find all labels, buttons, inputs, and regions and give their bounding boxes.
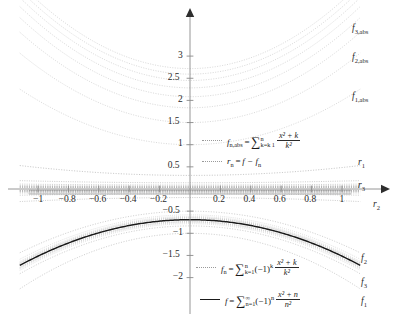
y-tick-label: −1.5 [163,250,180,260]
curve-label-r1: r1 [358,158,365,169]
legend-entry-f-limit: f = ∑∞n=1(−1)nx² + nn² [200,290,300,310]
legend-line-sample [202,140,222,142]
x-tick-label: −1 [33,195,43,205]
x-axis-arrow [381,185,390,193]
y-tick-label: 2.5 [168,73,180,83]
legend-entry-r-n: rn = f − fn [202,156,261,168]
curve-label-r3: r3 [358,181,365,192]
x-tick-label: 0.4 [243,195,255,205]
x-tick-label: 1 [340,195,345,205]
y-tick-label: −1 [173,228,183,238]
x-tick-label: 0.8 [304,195,316,205]
curve-label-f1abs: f1,abs [352,92,368,103]
x-tick-label: −0.2 [150,195,167,205]
y-tick-label: 3 [178,51,183,61]
legend-formula: rn = f − fn [227,156,261,168]
curve-label-f3abs: f3,abs [352,24,368,35]
legend-formula: f = ∑∞n=1(−1)nx² + nn² [225,290,300,310]
x-tick-label: 0.6 [274,195,286,205]
curve-label-f3: f3 [361,278,367,289]
legend-line-sample [200,299,220,301]
curve-label-f2: f2 [361,254,367,265]
x-tick-label: −0.4 [119,195,136,205]
legend-entry-f-n-abs: fn,abs = ∑nk=k 1x² + kk² [202,131,300,151]
y-tick-label: 1.5 [168,117,180,127]
legend-line-sample [196,267,216,269]
y-tick-label: −2 [173,272,183,282]
y-tick-label: −0.5 [163,206,180,216]
legend-formula: fn = ∑nk=1(−1)kx² + kk² [221,258,299,278]
y-tick-label: 0.5 [168,161,180,171]
legend-formula: fn,abs = ∑nk=k 1x² + kk² [227,131,300,151]
curve-label-f1: f1 [361,297,367,308]
legend-line-sample [202,161,222,163]
math-plot-figure: −1−0.8−0.6−0.4−0.20.20.40.60.8132.521.51… [0,0,398,322]
x-tick-label: 0.2 [213,195,225,205]
legend-entry-f-n: fn = ∑nk=1(−1)kx² + kk² [196,258,299,278]
x-tick-label: −0.6 [89,195,106,205]
y-axis-arrow [186,8,194,17]
x-tick-label: −0.8 [59,195,76,205]
y-tick-label: 2 [178,95,183,105]
curve-label-r2: r2 [373,200,380,211]
y-tick-label: 1 [178,139,183,149]
curve-label-f2abs: f2,abs [352,53,368,64]
